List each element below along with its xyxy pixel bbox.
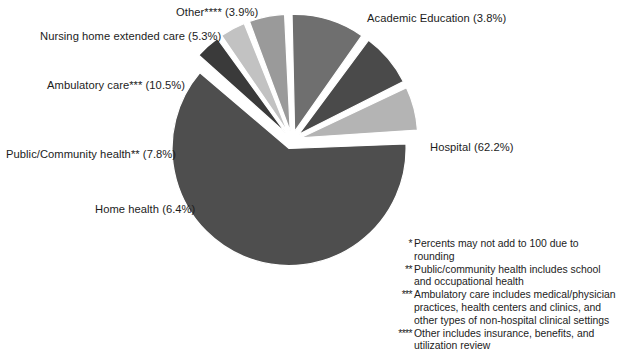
footnote-item: *Percents may not add to 100 due to roun… bbox=[390, 238, 616, 263]
footnote-item: **Public/community health includes schoo… bbox=[390, 264, 616, 289]
slice-label-public-community-health: Public/Community health** (7.8%) bbox=[6, 148, 176, 161]
footnote-marker: * bbox=[390, 238, 414, 249]
slice-label-nursing-home-extended-care: Nursing home extended care (5.3%) bbox=[40, 30, 221, 43]
footnote-text: Public/community health includes school … bbox=[414, 264, 616, 289]
pie-chart-figure: Academic Education (3.8%) Hospital (62.2… bbox=[0, 0, 619, 357]
slice-label-home-health: Home health (6.4%) bbox=[95, 203, 195, 216]
slice-label-academic-education: Academic Education (3.8%) bbox=[367, 12, 506, 25]
footnote-text: Ambulatory care includes medical/physici… bbox=[414, 289, 616, 327]
slice-label-hospital: Hospital (62.2%) bbox=[430, 141, 514, 154]
footnote-item: ***Ambulatory care includes medical/phys… bbox=[390, 289, 616, 327]
footnote-list: *Percents may not add to 100 due to roun… bbox=[390, 238, 616, 353]
footnote-marker: ** bbox=[390, 264, 414, 275]
footnote-marker: *** bbox=[390, 289, 414, 300]
footnote-item: ****Other includes insurance, benefits, … bbox=[390, 328, 616, 353]
footnote-marker: **** bbox=[390, 328, 414, 339]
footnote-text: Percents may not add to 100 due to round… bbox=[414, 238, 616, 263]
slice-label-ambulatory-care: Ambulatory care*** (10.5%) bbox=[47, 79, 185, 92]
footnote-text: Other includes insurance, benefits, and … bbox=[414, 328, 616, 353]
slice-label-other: Other**** (3.9%) bbox=[176, 6, 258, 19]
